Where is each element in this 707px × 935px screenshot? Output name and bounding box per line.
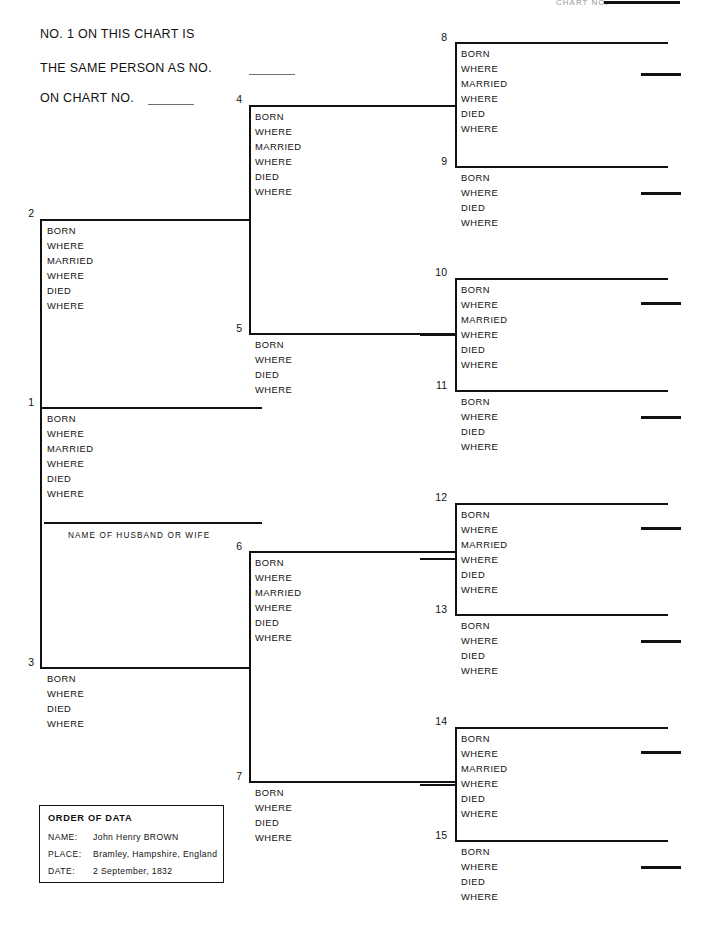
field-where2: WHERE (461, 552, 507, 567)
field-where: WHERE (461, 297, 507, 312)
field-born: BORN (461, 170, 498, 185)
box-fields-8: BORN WHERE MARRIED WHERE DIED WHERE (461, 46, 507, 137)
box-number-15: 15 (410, 829, 447, 841)
field-where2: WHERE (461, 776, 507, 791)
rule-box-3[interactable] (40, 667, 251, 669)
box-fields-13: BORN WHERE DIED WHERE (461, 618, 498, 678)
field-born: BORN (461, 731, 507, 746)
rule-box-15[interactable] (455, 840, 668, 842)
box-fields-2: BORN WHERE MARRIED WHERE DIED WHERE (47, 223, 93, 314)
field-died: DIED (255, 615, 301, 630)
blank-dash-14[interactable] (641, 751, 681, 754)
field-where: WHERE (255, 570, 301, 585)
field-married: MARRIED (461, 312, 507, 327)
box-number-5: 5 (212, 322, 242, 334)
blank-dash-15[interactable] (641, 866, 681, 869)
rule-box-7[interactable] (249, 781, 457, 783)
field-where2: WHERE (461, 889, 498, 904)
field-married: MARRIED (461, 761, 507, 776)
field-where: WHERE (461, 633, 498, 648)
order-of-data-legend: ORDER OF DATA NAME: John Henry BROWN PLA… (39, 805, 224, 883)
blank-dash-8[interactable] (641, 73, 681, 76)
rule-box-2[interactable] (40, 219, 251, 221)
field-died: DIED (461, 424, 498, 439)
field-where3: WHERE (47, 298, 93, 313)
rule-box-12[interactable] (455, 503, 668, 505)
field-where2: WHERE (461, 663, 498, 678)
field-where2: WHERE (461, 327, 507, 342)
field-died: DIED (461, 342, 507, 357)
box-number-10: 10 (410, 266, 447, 278)
rule-box-13[interactable] (455, 614, 668, 616)
legend-value-date: 2 September, 1832 (93, 866, 172, 876)
field-died: DIED (461, 567, 507, 582)
field-where3: WHERE (255, 184, 301, 199)
rule-box-5[interactable] (249, 333, 457, 335)
field-where3: WHERE (461, 121, 507, 136)
blank-dash-12[interactable] (641, 527, 681, 530)
connector-2-1-3 (40, 219, 42, 668)
rule-box-11[interactable] (455, 390, 668, 392)
field-born: BORN (255, 337, 292, 352)
field-where2: WHERE (47, 268, 93, 283)
field-died: DIED (461, 874, 498, 889)
box-number-9: 9 (415, 155, 447, 167)
box-fields-9: BORN WHERE DIED WHERE (461, 170, 498, 230)
field-where2: WHERE (461, 215, 498, 230)
rule-box-6[interactable] (249, 551, 457, 553)
box-fields-15: BORN WHERE DIED WHERE (461, 844, 498, 904)
rule-box-9[interactable] (455, 166, 668, 168)
husband-or-wife-caption: NAME OF HUSBAND OR WIFE (68, 531, 210, 540)
field-married: MARRIED (47, 441, 93, 456)
rule-box-14[interactable] (455, 727, 668, 729)
field-where: WHERE (461, 522, 507, 537)
box-number-8: 8 (415, 31, 447, 43)
legend-value-place: Bramley, Hampshire, England (93, 849, 217, 859)
field-where3: WHERE (461, 357, 507, 372)
rule-box-4[interactable] (249, 105, 457, 107)
field-where: WHERE (255, 352, 292, 367)
field-where: WHERE (461, 859, 498, 874)
connector-stub-6 (420, 558, 456, 560)
box-number-11: 11 (410, 379, 447, 391)
rule-box-10[interactable] (455, 278, 668, 280)
field-married: MARRIED (47, 253, 93, 268)
box-number-1: 1 (4, 396, 34, 408)
field-died: DIED (255, 815, 292, 830)
rule-husband-or-wife[interactable] (44, 522, 262, 524)
field-married: MARRIED (461, 537, 507, 552)
box-number-3: 3 (4, 656, 34, 668)
field-where2: WHERE (461, 439, 498, 454)
box-number-14: 14 (410, 715, 447, 727)
field-where: WHERE (461, 409, 498, 424)
blank-dash-13[interactable] (641, 640, 681, 643)
blank-dash-11[interactable] (641, 416, 681, 419)
header-line-2-blank[interactable] (249, 74, 295, 75)
corner-chart-no-label: CHART NO. (556, 0, 609, 7)
connector-stub-7 (420, 784, 456, 786)
field-where: WHERE (461, 61, 507, 76)
box-number-4: 4 (212, 93, 242, 105)
field-where2: WHERE (255, 830, 292, 845)
field-died: DIED (47, 283, 93, 298)
field-where3: WHERE (461, 582, 507, 597)
rule-box-8[interactable] (455, 42, 668, 44)
header-line-3-blank[interactable] (148, 104, 194, 105)
box-fields-14: BORN WHERE MARRIED WHERE DIED WHERE (461, 731, 507, 822)
legend-key-date: DATE: (48, 866, 75, 876)
header-line-3: ON CHART NO. (40, 91, 134, 105)
pedigree-chart: NO. 1 ON THIS CHART IS THE SAME PERSON A… (0, 0, 707, 935)
corner-chart-no-blank[interactable] (604, 1, 680, 4)
field-died: DIED (461, 648, 498, 663)
box-number-6: 6 (212, 540, 242, 552)
field-where3: WHERE (47, 486, 93, 501)
field-where2: WHERE (255, 382, 292, 397)
blank-dash-9[interactable] (641, 192, 681, 195)
legend-value-name: John Henry BROWN (93, 832, 179, 842)
field-where: WHERE (255, 124, 301, 139)
field-born: BORN (47, 411, 93, 426)
field-born: BORN (461, 507, 507, 522)
field-where2: WHERE (47, 716, 84, 731)
rule-box-1[interactable] (40, 407, 262, 409)
blank-dash-10[interactable] (641, 302, 681, 305)
